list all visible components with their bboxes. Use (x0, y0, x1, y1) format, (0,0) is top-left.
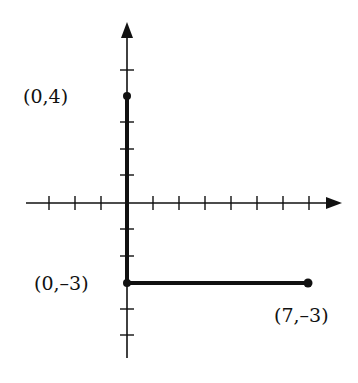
point-7-neg3 (304, 279, 313, 288)
y-axis-arrow-icon (121, 22, 133, 38)
label-point-7-neg3: (7,–3) (274, 304, 329, 326)
label-point-0-4: (0,4) (23, 85, 68, 107)
x-axis-arrow-icon (326, 197, 342, 209)
point-0-neg3 (123, 279, 131, 287)
coordinate-plane: (0,4) (0,–3) (7,–3) (0, 0, 358, 383)
label-point-0-neg3: (0,–3) (34, 272, 89, 294)
point-0-4 (123, 92, 131, 100)
